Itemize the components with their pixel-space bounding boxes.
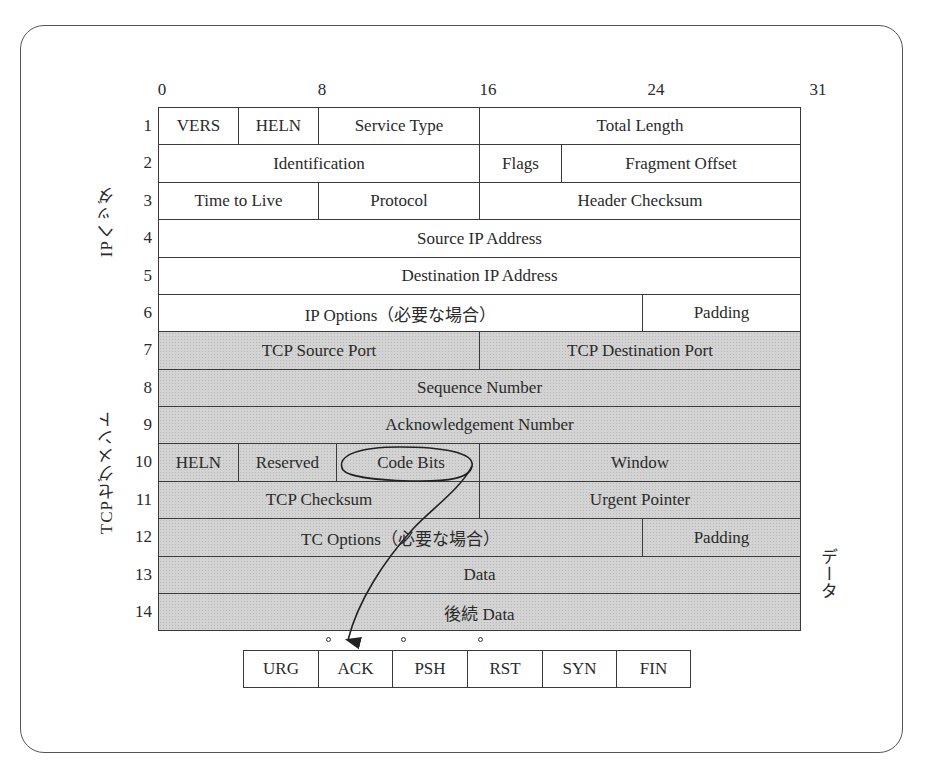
field-fragment-offset: Fragment Offset (561, 144, 801, 183)
boundary-mark-icon (478, 637, 483, 642)
field-header-checksum: Header Checksum (479, 182, 801, 220)
flag-syn: SYN (542, 650, 617, 688)
field-data: Data (158, 556, 801, 594)
field-tcp-source-port: TCP Source Port (158, 331, 480, 370)
field-identification: Identification (158, 144, 480, 183)
bit-label-31: 31 (810, 80, 827, 100)
boundary-mark-icon (401, 637, 406, 642)
field-service-type: Service Type (318, 107, 480, 145)
row-number: 3 (128, 191, 152, 211)
field-ip-padding: Padding (642, 294, 801, 332)
bit-label-24: 24 (648, 80, 665, 100)
field-tcp-options: TC Options（必要な場合） (158, 518, 643, 557)
field-destination-ip: Destination IP Address (158, 257, 801, 295)
field-time-to-live: Time to Live (158, 182, 319, 220)
row-number: 5 (128, 266, 152, 286)
field-total-length: Total Length (479, 107, 801, 145)
field-reserved: Reserved (238, 443, 337, 482)
field-urgent-pointer: Urgent Pointer (479, 481, 801, 519)
data-label: データ (815, 548, 840, 599)
field-ip-options: IP Options（必要な場合） (158, 294, 643, 332)
row-number: 9 (128, 415, 152, 435)
row-number: 4 (128, 228, 152, 248)
bit-label-0: 0 (158, 80, 167, 100)
bit-label-16: 16 (480, 80, 497, 100)
field-code-bits: Code Bits (336, 443, 480, 482)
field-sequence-number: Sequence Number (158, 369, 801, 407)
field-ip-heln: HELN (238, 107, 319, 145)
flag-rst: RST (467, 650, 543, 688)
field-tcp-padding: Padding (642, 518, 801, 557)
row-number: 11 (128, 490, 152, 510)
field-window: Window (479, 443, 801, 482)
row-number: 8 (128, 378, 152, 398)
row-number: 14 (128, 602, 152, 622)
row-number: 7 (128, 340, 152, 360)
field-tcp-destination-port: TCP Destination Port (479, 331, 801, 370)
field-source-ip: Source IP Address (158, 219, 801, 258)
field-tcp-checksum: TCP Checksum (158, 481, 480, 519)
tcp-segment-label: TCPセグメント (94, 410, 119, 534)
field-subsequent-data: 後続 Data (158, 593, 801, 631)
bit-label-8: 8 (318, 80, 327, 100)
row-number: 12 (128, 527, 152, 547)
row-number: 6 (128, 303, 152, 323)
flag-ack: ACK (318, 650, 393, 688)
flag-fin: FIN (616, 650, 691, 688)
field-protocol: Protocol (318, 182, 480, 220)
ip-header-label: IPヘッダ (94, 186, 119, 257)
flag-psh: PSH (392, 650, 468, 688)
field-tcp-heln: HELN (158, 443, 239, 482)
row-number: 13 (128, 565, 152, 585)
field-acknowledgement-number: Acknowledgement Number (158, 406, 801, 444)
row-number: 10 (128, 452, 152, 472)
row-number: 1 (128, 116, 152, 136)
boundary-mark-icon (326, 637, 331, 642)
field-flags: Flags (479, 144, 562, 183)
row-number: 2 (128, 153, 152, 173)
field-vers: VERS (158, 107, 239, 145)
flag-urg: URG (243, 650, 319, 688)
